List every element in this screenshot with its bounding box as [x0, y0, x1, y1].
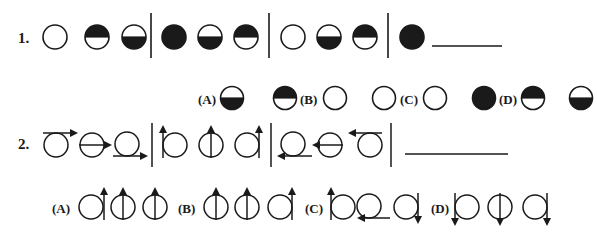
circle-arrow-right-up-icon	[235, 127, 259, 158]
circle-empty-icon	[324, 87, 347, 110]
circle-bottom-filled-icon	[198, 25, 222, 49]
circle-top-filled-icon	[234, 25, 258, 49]
question-number: 1.	[18, 30, 30, 46]
options-row: (A) (B)	[52, 189, 547, 224]
circle-arrow-middle-right-icon	[79, 133, 110, 157]
option-c[interactable]: (C)	[400, 87, 496, 110]
circle-arrow-bottom-right-icon	[113, 132, 146, 156]
circle-arrow-right-up-icon	[79, 189, 104, 220]
circle-arrow-left-up-icon	[163, 127, 187, 158]
circle-arrow-bottom-left-icon	[279, 132, 312, 156]
circle-arrow-center-down-icon	[488, 193, 512, 224]
option-label: (A)	[52, 201, 70, 216]
option-label: (D)	[431, 201, 449, 216]
option-b[interactable]: (B)	[178, 189, 292, 220]
option-a[interactable]: (A)	[198, 87, 297, 110]
circle-bottom-filled-icon	[122, 25, 146, 49]
circle-empty-icon	[424, 87, 447, 110]
circle-arrow-bottom-left-icon	[357, 194, 390, 218]
circle-arrow-center-up-icon	[143, 189, 167, 220]
circle-arrow-middle-left-icon	[314, 133, 343, 157]
option-label: (C)	[400, 92, 418, 107]
option-label: (A)	[198, 92, 216, 107]
circle-arrow-center-up-icon	[204, 189, 228, 220]
circle-arrow-top-left-icon	[350, 133, 382, 157]
circle-arrow-right-up-icon	[268, 189, 292, 220]
circle-arrow-left-up-icon	[331, 189, 355, 220]
circle-arrow-right-down-icon	[394, 193, 418, 222]
circle-empty-icon	[281, 25, 305, 49]
question-number: 2.	[18, 136, 30, 152]
circle-arrow-right-down-icon	[523, 193, 547, 224]
circle-full-icon	[473, 87, 496, 110]
option-a[interactable]: (A)	[52, 189, 167, 220]
option-d[interactable]: (D)	[431, 193, 547, 224]
circle-full-icon	[400, 25, 424, 49]
circle-top-filled-icon	[522, 87, 545, 110]
question-1: 1.	[18, 13, 593, 110]
circle-arrow-center-up-icon	[111, 189, 135, 220]
option-d[interactable]: (D)	[499, 87, 593, 110]
circle-empty-icon	[373, 87, 396, 110]
option-label: (C)	[305, 201, 323, 216]
circle-arrow-top-right-icon	[43, 133, 76, 157]
circle-arrow-left-down-icon	[455, 193, 479, 224]
option-b[interactable]: (B)	[300, 87, 396, 110]
circle-bottom-filled-icon	[317, 25, 341, 49]
question-2: 2.	[18, 123, 547, 224]
circle-top-filled-icon	[85, 25, 109, 49]
options-row: (A) (B)	[198, 87, 593, 110]
circle-arrow-center-up-icon	[235, 189, 259, 220]
option-label: (D)	[499, 92, 517, 107]
circle-top-filled-icon	[274, 87, 297, 110]
circle-arrow-center-up-icon	[199, 127, 223, 158]
circle-bottom-filled-icon	[570, 87, 593, 110]
option-label: (B)	[300, 92, 317, 107]
circle-bottom-filled-icon	[221, 87, 244, 110]
circle-full-icon	[162, 25, 186, 49]
puzzle-figure: 1.	[0, 0, 597, 235]
option-c[interactable]: (C)	[305, 189, 418, 222]
circle-empty-icon	[43, 25, 67, 49]
circle-top-filled-icon	[353, 25, 377, 49]
option-label: (B)	[178, 201, 195, 216]
